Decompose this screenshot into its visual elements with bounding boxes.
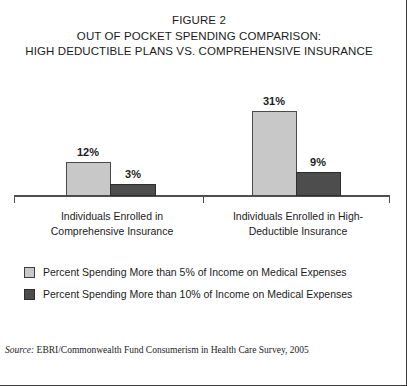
legend-label-5-percent: Percent Spending More than 5% of Income …	[43, 266, 347, 278]
legend-swatch-light-icon	[24, 267, 35, 278]
category-label-comprehensive: Individuals Enrolled in Comprehensive In…	[19, 209, 205, 239]
bar-value-high-deductible-5-percent: 31%	[251, 95, 297, 107]
axis-tick-left	[14, 196, 15, 203]
legend-label-10-percent: Percent Spending More than 10% of Income…	[43, 288, 352, 300]
bar-high-deductible-5-percent	[252, 111, 297, 196]
axis-tick-center	[203, 196, 204, 203]
category-label-high-deductible-line2: Deductible Insurance	[205, 224, 391, 239]
category-label-comprehensive-line2: Comprehensive Insurance	[19, 224, 205, 239]
chart-legend: Percent Spending More than 5% of Income …	[24, 261, 384, 305]
source-note-text: EBRI/Commonwealth Fund Consumerism in He…	[34, 345, 309, 355]
bar-comprehensive-10-percent	[110, 184, 156, 196]
bar-comprehensive-5-percent	[66, 162, 111, 196]
bar-chart-plot-area: 12% 3% 31% 9% Individuals Enrolled in Co…	[0, 0, 407, 386]
legend-swatch-dark-icon	[24, 289, 35, 300]
bar-value-comprehensive-10-percent: 3%	[110, 168, 156, 180]
category-label-comprehensive-line1: Individuals Enrolled in	[19, 209, 205, 224]
figure-frame: FIGURE 2 OUT OF POCKET SPENDING COMPARIS…	[0, 0, 407, 386]
bar-high-deductible-10-percent	[296, 172, 341, 196]
category-label-high-deductible-line1: Individuals Enrolled in High-	[205, 209, 391, 224]
bar-value-high-deductible-10-percent: 9%	[295, 156, 341, 168]
axis-tick-right	[389, 196, 390, 203]
source-note-label: Source:	[5, 345, 34, 355]
legend-item-10-percent: Percent Spending More than 10% of Income…	[24, 283, 384, 305]
bar-value-comprehensive-5-percent: 12%	[65, 146, 111, 158]
legend-item-5-percent: Percent Spending More than 5% of Income …	[24, 261, 384, 283]
source-note: Source: EBRI/Commonwealth Fund Consumeri…	[5, 345, 309, 355]
category-label-high-deductible: Individuals Enrolled in High- Deductible…	[205, 209, 391, 239]
